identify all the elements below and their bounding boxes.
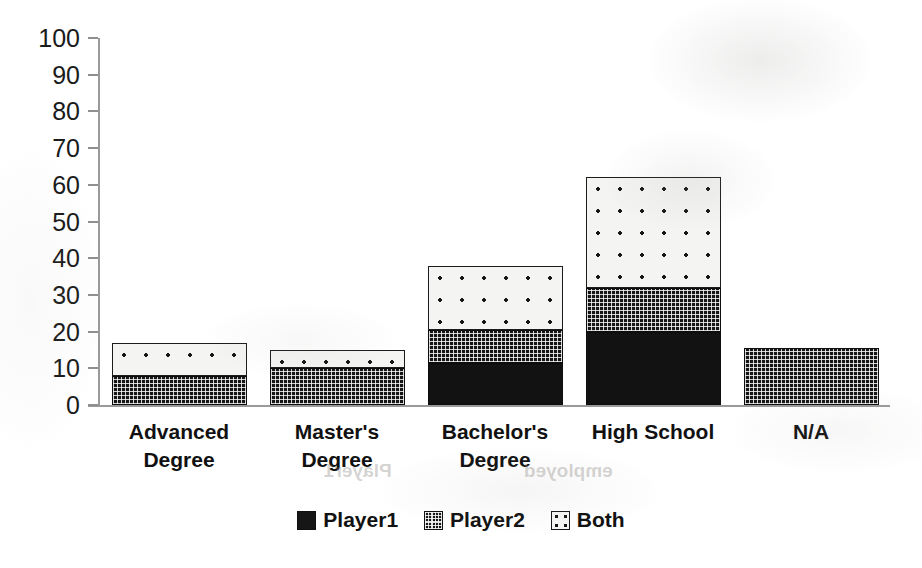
y-axis-tick-mark [88,367,98,369]
legend-label: Player1 [323,508,398,532]
y-axis-tick-mark [88,110,98,112]
bar-bachelor-s-degree[interactable] [428,38,563,405]
y-axis-tick-mark [88,404,98,406]
x-axis-category-line: N/A [732,418,890,446]
y-axis-tick-mark [88,331,98,333]
y-axis-tick-mark [88,147,98,149]
bar-segment-player2[interactable] [112,376,247,405]
x-axis-category-line: Degree [258,446,416,474]
y-axis-tick-mark [88,184,98,186]
x-axis-category-label: Bachelor'sDegree [416,418,574,473]
y-axis-tick-mark [88,37,98,39]
y-axis-tick-label: 100 [8,26,80,51]
x-axis-category-line: Degree [416,446,574,474]
stacked-bar-chart: 0102030405060708090100 AdvancedDegreeMas… [0,0,922,568]
chart-legend: Player1Player2Both [0,508,922,532]
bar-segment-both[interactable] [428,266,563,330]
legend-item-player2[interactable]: Player2 [424,508,525,532]
sparse-dots-swatch-icon [551,511,570,530]
y-axis-tick-label: 90 [8,62,80,87]
bar-master-s-degree[interactable] [270,38,405,405]
bar-segment-both[interactable] [270,350,405,368]
y-axis-tick-label: 50 [8,209,80,234]
y-axis-tick-label: 40 [8,246,80,271]
y-axis-tick-label: 10 [8,356,80,381]
y-axis-tick-label: 20 [8,319,80,344]
legend-item-both[interactable]: Both [551,508,625,532]
y-axis: 0102030405060708090100 [0,0,80,568]
y-axis-tick-mark [88,74,98,76]
bar-segment-both[interactable] [112,343,247,376]
bar-n-a[interactable] [744,38,879,405]
bar-advanced-degree[interactable] [112,38,247,405]
x-axis-category-label: High School [574,418,732,446]
x-axis-line [88,405,890,407]
x-axis-category-line: Degree [100,446,258,474]
bar-segment-both[interactable] [586,177,721,287]
y-axis-tick-label: 30 [8,282,80,307]
x-axis-category-label: AdvancedDegree [100,418,258,473]
bar-segment-player2[interactable] [270,368,405,405]
legend-item-player1[interactable]: Player1 [297,508,398,532]
solid-black-swatch-icon [297,511,316,530]
x-axis-category-line: Advanced [100,418,258,446]
x-axis-category-label: Master'sDegree [258,418,416,473]
bar-segment-player2[interactable] [428,330,563,363]
bar-segment-player2[interactable] [744,348,879,405]
y-axis-tick-label: 0 [8,393,80,418]
x-axis-category-line: High School [574,418,732,446]
y-axis-tick-mark [88,221,98,223]
bar-high-school[interactable] [586,38,721,405]
bar-segment-player2[interactable] [586,288,721,332]
dense-checker-swatch-icon [424,511,443,530]
plot-area [100,38,890,405]
x-axis-category-label: N/A [732,418,890,446]
legend-label: Both [577,508,625,532]
bar-segment-player1[interactable] [428,363,563,405]
x-axis-category-line: Bachelor's [416,418,574,446]
legend-label: Player2 [450,508,525,532]
y-axis-tick-mark [88,257,98,259]
bar-segment-player1[interactable] [586,332,721,405]
y-axis-tick-label: 80 [8,99,80,124]
y-axis-tick-label: 70 [8,136,80,161]
x-axis-category-line: Master's [258,418,416,446]
y-axis-tick-mark [88,294,98,296]
y-axis-tick-label: 60 [8,172,80,197]
